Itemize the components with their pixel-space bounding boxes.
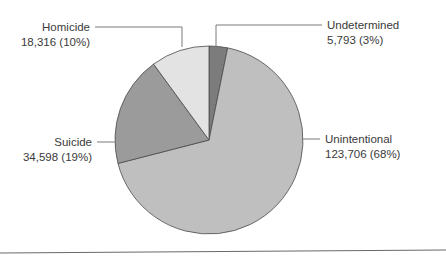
- homicide-label-value: 18,316 (10%): [21, 36, 90, 48]
- unintentional-label-value: 123,706 (68%): [325, 148, 401, 160]
- bottom-divider: [0, 250, 446, 253]
- undetermined-label-value: 5,793 (3%): [327, 34, 383, 46]
- homicide-label-name: Homicide: [42, 21, 90, 33]
- pie-slices: [115, 46, 303, 234]
- unintentional-label-name: Unintentional: [325, 133, 392, 145]
- pie-chart: Homicide 18,316 (10%) Undetermined 5,793…: [0, 0, 446, 261]
- suicide-label-name: Suicide: [54, 136, 92, 148]
- suicide-label-value: 34,598 (19%): [23, 151, 92, 163]
- undetermined-leader-line: [216, 25, 322, 47]
- pie-chart-svg: Homicide 18,316 (10%) Undetermined 5,793…: [0, 0, 446, 261]
- undetermined-label-name: Undetermined: [327, 19, 399, 31]
- homicide-leader-line: [95, 27, 182, 47]
